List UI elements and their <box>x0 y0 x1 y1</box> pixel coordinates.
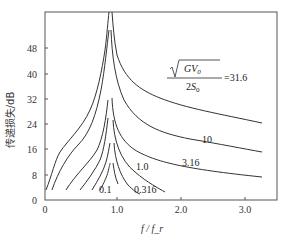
curve-31.6 <box>46 12 262 190</box>
x-axis-label: f / f_r <box>141 223 163 234</box>
y-tick-label: 0 <box>32 195 37 206</box>
curve-label-0.316: 0.316 <box>134 184 157 195</box>
curve-1.0 <box>80 118 165 192</box>
curve-label-10: 10 <box>202 134 212 145</box>
curves <box>46 12 262 194</box>
formula-denominator: 2S0 <box>186 81 200 94</box>
formula-value: =31.6 <box>224 72 247 83</box>
curve-10 <box>52 30 262 190</box>
curve-label-3.16: 3.16 <box>182 157 200 168</box>
formula-numerator: GV0 <box>184 63 201 76</box>
y-tick-label: 40 <box>27 69 37 80</box>
y-axis-label: 传递损失/dB <box>4 92 16 149</box>
x-tick-label: 3.0 <box>239 204 252 215</box>
y-tick-label: 16 <box>27 144 37 155</box>
curve-label-0.1: 0.1 <box>99 184 112 195</box>
formula-annotation: GV0 2S0 =31.6 <box>167 60 247 94</box>
y-tick-label: 24 <box>27 119 37 130</box>
x-tick-label: 0 <box>43 204 48 215</box>
y-tick-label: 32 <box>27 94 37 105</box>
transmission-loss-chart: 0 8 16 24 32 40 48 0 1.0 2.0 3.0 f / f_r… <box>0 0 289 239</box>
x-tick-label: 1.0 <box>111 204 124 215</box>
x-tick-label: 2.0 <box>175 204 188 215</box>
y-tick-label: 48 <box>27 43 37 54</box>
curve-label-1.0: 1.0 <box>136 161 149 172</box>
y-tick-label: 8 <box>32 170 37 181</box>
